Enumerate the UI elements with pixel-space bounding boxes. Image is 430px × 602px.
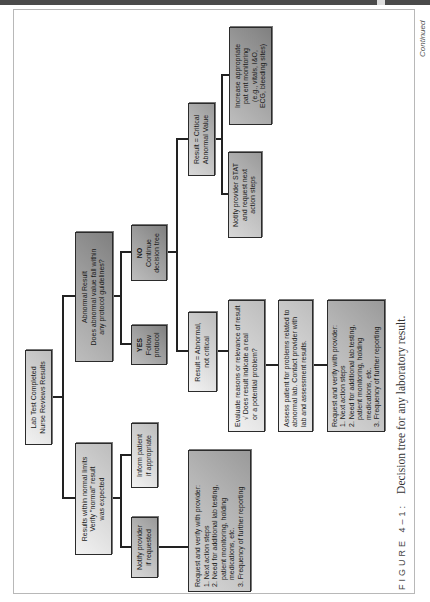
node-notify-provider-if-requested: Notify provider if requested xyxy=(131,517,158,578)
node-text: action steps xyxy=(249,176,258,213)
node-yes-follow-protocol: YES Follow protocol xyxy=(131,325,167,365)
node-text: Request and verify with provider: xyxy=(194,485,203,587)
connector xyxy=(120,455,122,548)
node-text: pat ent monitoring xyxy=(242,48,251,104)
node-text: 3. Frequency of further reporting xyxy=(373,327,382,427)
node-text: Abnormal Value xyxy=(202,115,211,164)
connector xyxy=(176,139,178,352)
connector xyxy=(221,75,223,195)
node-text: decision tree xyxy=(153,233,162,273)
connector xyxy=(62,296,75,298)
node-increase-patient-monitoring: Increase appropriate pat ent monitoring … xyxy=(229,27,272,125)
node-text: ECG, bleeding sites) xyxy=(259,44,268,108)
node-text: 1. Next action steps xyxy=(339,366,348,427)
connector xyxy=(313,365,327,367)
connector xyxy=(158,547,188,549)
node-text: any protocol guidelines? xyxy=(98,259,107,335)
node-assess-patient: Assess patient for problems related to a… xyxy=(278,300,313,432)
connector xyxy=(217,351,228,353)
node-text: if requested xyxy=(145,529,154,566)
node-abnormal-result: Abnormal Result Does abnormal value fall… xyxy=(75,232,113,362)
node-text: Inform patient xyxy=(136,434,145,477)
node-text: not critical xyxy=(203,336,212,368)
connector xyxy=(120,252,122,345)
node-text: NO xyxy=(136,248,145,259)
node-text: Assess patient for problems related to xyxy=(283,309,292,427)
node-text: medications, etc. xyxy=(228,527,237,587)
node-text: Continue xyxy=(145,239,154,267)
connector xyxy=(62,296,64,499)
connector xyxy=(221,194,228,196)
node-evaluate-reasons: Evaluate reasons or relevance of result … xyxy=(228,300,265,432)
node-text: Does abnormal value fall within xyxy=(90,249,99,346)
node-text: if appropriate xyxy=(145,435,154,476)
node-text: Notify provider xyxy=(136,525,145,570)
node-text: was expected xyxy=(98,478,107,521)
node-text: Nurse Reviews Results xyxy=(39,361,48,433)
connector xyxy=(120,252,131,254)
node-text: Notify provider STAT xyxy=(232,163,241,227)
node-text: Result = Abnormal, xyxy=(194,322,203,381)
node-text: Results within normal limits xyxy=(81,457,90,541)
checkmark-icon: √ xyxy=(242,416,249,420)
connector xyxy=(265,365,278,367)
connector xyxy=(221,75,229,77)
node-notify-provider-stat: Notify provider STAT and request next ac… xyxy=(228,152,262,238)
figure-caption: FIGURE 4–1: Decision tree for any labora… xyxy=(395,316,407,590)
connector xyxy=(176,139,188,141)
continued-label: Continued xyxy=(418,21,427,57)
node-text: patient monitoring, holding xyxy=(220,498,229,587)
node-lab-test-completed: Lab Test Completed Nurse Reviews Results xyxy=(25,350,52,445)
connector xyxy=(120,344,131,346)
connector xyxy=(120,547,131,549)
node-text-checked: √ Does result indicate a real xyxy=(242,333,251,427)
node-results-within-normal-limits: Results within normal limits Verify "nor… xyxy=(75,443,112,555)
figure-label: FIGURE 4–1: xyxy=(397,503,407,590)
connector xyxy=(176,351,188,353)
connector xyxy=(62,498,75,500)
decision-tree-canvas: Lab Test Completed Nurse Reviews Results… xyxy=(0,0,430,602)
node-no-continue-decision-tree: NO Continue decision tree xyxy=(131,225,167,281)
node-text: protocol xyxy=(153,333,162,358)
connector xyxy=(120,455,131,457)
node-text: Result = Critical xyxy=(193,115,202,164)
node-text: 1. Next action steps xyxy=(203,526,212,587)
node-text: Verify "normal" result xyxy=(89,467,98,532)
node-text: YES xyxy=(136,338,145,352)
node-text: lab and assessment results. xyxy=(300,340,309,427)
node-result-critical-abnormal-value: Result = Critical Abnormal Value xyxy=(188,103,215,176)
node-text: and request next xyxy=(241,169,250,221)
node-text: or a potential problem? xyxy=(251,348,260,427)
node-text: Increase appropriate xyxy=(234,44,243,108)
node-inform-patient: Inform patient if appropriate xyxy=(131,423,158,488)
node-text: (e.g., vitals, I&O, xyxy=(251,50,260,102)
node-text: Follow xyxy=(145,335,154,355)
node-text: 2. Need for additional lab testing, xyxy=(211,485,220,587)
node-text: Lab Test Completed xyxy=(30,366,39,428)
node-text: Request and verify with provider: xyxy=(331,325,340,427)
node-text: Does result indicate a real xyxy=(242,333,249,414)
node-text: Abnormal Result xyxy=(81,271,90,323)
figure-title: Decision tree for any laboratory result. xyxy=(395,316,407,494)
node-text: patient monitoring, holding medications,… xyxy=(356,304,373,427)
node-request-verify-provider-abnormal: Request and verify with provider: 1. Nex… xyxy=(327,300,385,432)
node-request-verify-provider-normal: Request and verify with provider: 1. Nex… xyxy=(188,450,251,592)
node-text: 3. Frequency of further reporting xyxy=(237,487,246,587)
node-text: abnormal lab. Contact provider with xyxy=(291,317,300,427)
node-text: 2. Need for additional lab testing, xyxy=(348,325,357,427)
node-result-abnormal-not-critical: Result = Abnormal, not critical xyxy=(188,312,217,392)
node-text: Evaluate reasons or relevance of result xyxy=(234,306,243,427)
